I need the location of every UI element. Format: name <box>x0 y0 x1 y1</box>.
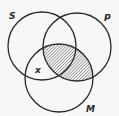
label-p: P <box>104 13 111 23</box>
venn-svg: S P x M <box>0 0 119 116</box>
venn-diagram: S P x M <box>0 0 119 116</box>
label-m: M <box>86 104 95 114</box>
label-x: x <box>34 65 42 75</box>
label-s: S <box>9 11 15 21</box>
